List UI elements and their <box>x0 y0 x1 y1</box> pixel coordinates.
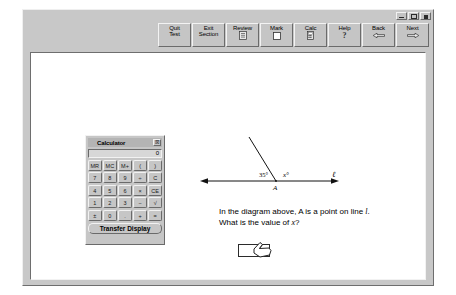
calc-key-minus[interactable]: − <box>133 197 147 208</box>
window-controls <box>396 11 431 20</box>
list-icon <box>239 31 247 40</box>
test-toolbar: Quit Test Exit Section Review Mark <box>25 21 431 48</box>
point-a-label: A <box>273 184 277 192</box>
calc-key-2[interactable]: 2 <box>103 197 117 208</box>
calculator-row: 4 5 6 × CE <box>88 185 162 196</box>
help-button[interactable]: Help ? <box>328 23 361 47</box>
calculator-row: 7 8 9 ÷ C <box>88 172 162 183</box>
back-button[interactable]: Back <box>362 23 395 47</box>
calc-key-sign[interactable]: ± <box>88 210 102 221</box>
help-label: Help <box>339 25 351 31</box>
calc-key-4[interactable]: 4 <box>88 185 102 196</box>
question-line-2: What is the value of x? <box>219 217 429 228</box>
question-page: Calculator ☒ 0 MR MC M+ ( ) 7 8 9 ÷ C 4 … <box>30 52 426 280</box>
transfer-display-button[interactable]: Transfer Display <box>88 223 162 234</box>
arrow-right-icon <box>406 31 420 40</box>
calculator-titlebar: Calculator ☒ <box>88 138 162 147</box>
calc-key-mplus[interactable]: M+ <box>118 160 132 171</box>
angle-x-label: x° <box>283 171 289 179</box>
calculator-row: ± 0 . + = <box>88 210 162 221</box>
checkbox-icon <box>273 31 281 40</box>
quit-test-button[interactable]: Quit Test <box>158 23 191 47</box>
angle-35-label: 35° <box>259 171 268 178</box>
quit-test-label-line2: Test <box>169 31 180 37</box>
question-line2-pre: What is the value of <box>219 218 291 227</box>
question-line1-pre: In the diagram above, A is a point on li… <box>219 207 365 216</box>
mark-label: Mark <box>270 25 283 31</box>
calc-key-multiply[interactable]: × <box>133 185 147 196</box>
mark-button[interactable]: Mark <box>260 23 293 47</box>
svg-text:?: ? <box>343 32 347 41</box>
maximize-icon <box>411 14 417 19</box>
close-icon <box>424 15 428 19</box>
calc-key-clear[interactable]: C <box>148 172 162 183</box>
calculator-close-icon[interactable]: ☒ <box>153 139 161 146</box>
minimize-icon <box>399 17 404 18</box>
exit-section-button[interactable]: Exit Section <box>192 23 225 47</box>
review-label: Review <box>233 25 252 31</box>
answer-input-box[interactable] <box>238 244 270 257</box>
question-line2-post: ? <box>295 218 299 227</box>
calc-key-plus[interactable]: + <box>133 210 147 221</box>
question-line1-post: . <box>368 207 370 216</box>
calc-key-sqrt[interactable]: √ <box>148 197 162 208</box>
close-button[interactable] <box>420 12 431 20</box>
calc-key-6[interactable]: 6 <box>118 185 132 196</box>
question-line-1: In the diagram above, A is a point on li… <box>219 206 429 217</box>
calc-button[interactable]: Calc <box>294 23 327 47</box>
question-prompt: In the diagram above, A is a point on li… <box>219 206 429 228</box>
calc-key-mr[interactable]: MR <box>88 160 102 171</box>
back-label: Back <box>372 25 385 31</box>
arrow-left-icon <box>372 31 386 40</box>
calc-key-3[interactable]: 3 <box>118 197 132 208</box>
calc-key-divide[interactable]: ÷ <box>133 172 147 183</box>
geometry-diagram: 35° x° A ℓ <box>199 129 349 195</box>
maximize-button[interactable] <box>408 12 419 20</box>
calc-key-8[interactable]: 8 <box>103 172 117 183</box>
calc-key-equals[interactable]: = <box>148 210 162 221</box>
calculator-row: MR MC M+ ( ) <box>88 160 162 171</box>
review-button[interactable]: Review <box>226 23 259 47</box>
next-button[interactable]: Next <box>396 23 429 47</box>
calc-key-1[interactable]: 1 <box>88 197 102 208</box>
minimize-button[interactable] <box>396 12 407 20</box>
calc-key-ce[interactable]: CE <box>148 185 162 196</box>
calc-key-7[interactable]: 7 <box>88 172 102 183</box>
calc-key-9[interactable]: 9 <box>118 172 132 183</box>
calc-key-0[interactable]: 0 <box>103 210 117 221</box>
calc-key-paren-close[interactable]: ) <box>148 160 162 171</box>
calc-key-5[interactable]: 5 <box>103 185 117 196</box>
calc-key-mc[interactable]: MC <box>103 160 117 171</box>
calc-key-decimal[interactable]: . <box>118 210 132 221</box>
next-label: Next <box>407 25 419 31</box>
line-l-label: ℓ <box>332 170 335 179</box>
calc-key-paren-open[interactable]: ( <box>133 160 147 171</box>
calc-label: Calc <box>305 25 317 31</box>
calculator-widget[interactable]: Calculator ☒ 0 MR MC M+ ( ) 7 8 9 ÷ C 4 … <box>85 135 165 245</box>
exit-section-label-line2: Section <box>199 31 218 37</box>
calculator-row: 1 2 3 − √ <box>88 197 162 208</box>
calculator-icon <box>307 31 314 40</box>
test-application-window: Quit Test Exit Section Review Mark <box>22 9 434 286</box>
calculator-display: 0 <box>88 149 162 158</box>
calculator-title: Calculator <box>89 140 125 146</box>
question-icon: ? <box>341 31 348 40</box>
